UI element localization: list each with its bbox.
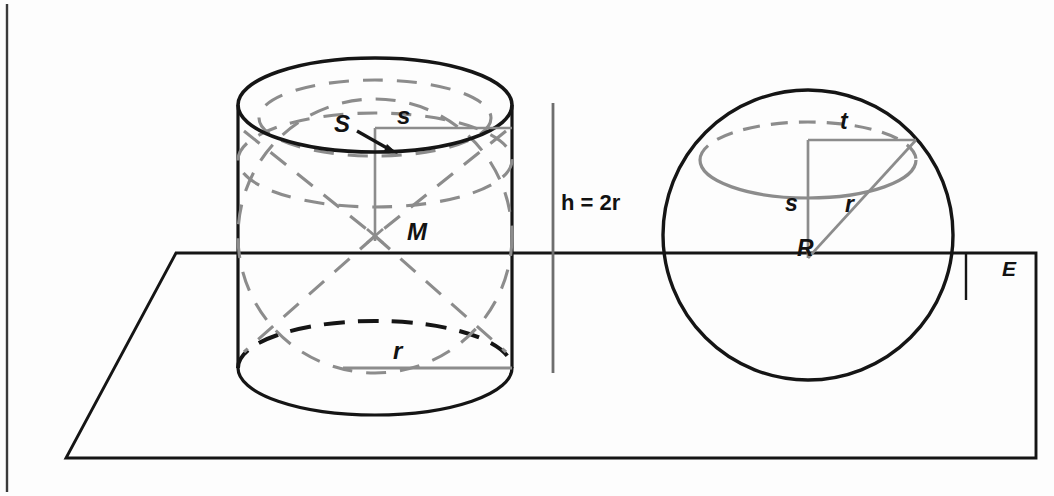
cylinder-bottom-front-arc (238, 368, 512, 415)
label-sphere-radius: r (845, 193, 854, 216)
label-sphere-chord: t (840, 110, 848, 133)
label-sphere-center: R (797, 237, 814, 260)
label-sphere-axis-segment: s (785, 192, 798, 215)
label-height-relation: h = 2r (561, 192, 620, 214)
geometry-svg (0, 0, 1054, 496)
label-cylinder-center-top: S (334, 112, 350, 136)
diagram-canvas: s S M r h = 2r t s r R E (0, 0, 1054, 496)
label-cylinder-midpoint: M (407, 220, 427, 244)
label-cylinder-top-radius: s (397, 104, 410, 128)
label-plane-E: E (1002, 258, 1016, 279)
label-cylinder-radius: r (393, 339, 402, 363)
cylinder-bottom-hidden-arc (238, 321, 512, 368)
